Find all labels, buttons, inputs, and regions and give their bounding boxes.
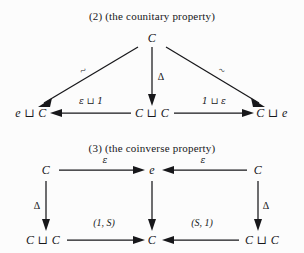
- edge-topleft-to-topmid: [59, 166, 145, 174]
- coinverse-edges: [0, 0, 304, 253]
- figure-canvas: (2) (the counitary property) C e ⊔ C C ⊔: [0, 0, 304, 253]
- label-topright-to-bottomright-delta: Δ: [263, 200, 269, 211]
- node-coinverse-top-left: C: [42, 163, 50, 178]
- edge-topleft-to-bottomleft: [42, 181, 50, 231]
- node-coinverse-bottom-mid: C: [148, 233, 156, 248]
- label-topleft-to-topmid: ε: [103, 155, 108, 165]
- edge-topright-to-bottomright: [254, 181, 262, 231]
- edge-bottomright-to-bottommid: [162, 236, 239, 244]
- label-bottomright-to-bottommid: (S, 1): [191, 217, 213, 228]
- node-coinverse-bottom-right: C ⊔ C: [245, 233, 279, 248]
- label-topright-to-topmid: ε: [201, 155, 206, 165]
- edge-bottomleft-to-bottommid: [67, 236, 145, 244]
- label-bottomleft-to-bottommid: (1, S): [93, 217, 115, 228]
- node-coinverse-top-mid: e: [149, 163, 155, 178]
- label-topleft-to-bottomleft-delta: Δ: [34, 200, 40, 211]
- node-coinverse-bottom-left: C ⊔ C: [26, 233, 60, 248]
- edge-topright-to-topmid: [162, 166, 247, 174]
- edge-topmid-to-bottommid: [148, 181, 156, 231]
- node-coinverse-top-right: C: [254, 163, 262, 178]
